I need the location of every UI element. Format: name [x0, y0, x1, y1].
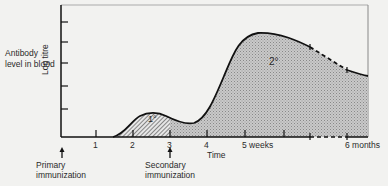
primary-region-label: 1° — [148, 114, 157, 124]
x-tick-6-months: 6 months — [345, 140, 380, 150]
secondary-response-area — [170, 33, 368, 137]
x-tick-5-weeks: 5 weeks — [242, 140, 273, 150]
y-axis-label: Log titre — [40, 44, 50, 75]
x-axis-label: Time — [207, 150, 226, 160]
primary-immunization-arrow-icon — [60, 147, 65, 158]
x-tick-4: 4 — [204, 140, 209, 150]
y-axis — [61, 5, 68, 137]
antibody-response-chart — [0, 0, 388, 186]
secondary-immunization-label: Secondary immunization — [145, 160, 211, 180]
secondary-region-label: 2° — [269, 57, 279, 67]
x-tick-3: 3 — [167, 140, 172, 150]
x-tick-1: 1 — [93, 140, 98, 150]
x-tick-2: 2 — [130, 140, 135, 150]
primary-immunization-label: Primary immunization — [36, 160, 96, 180]
